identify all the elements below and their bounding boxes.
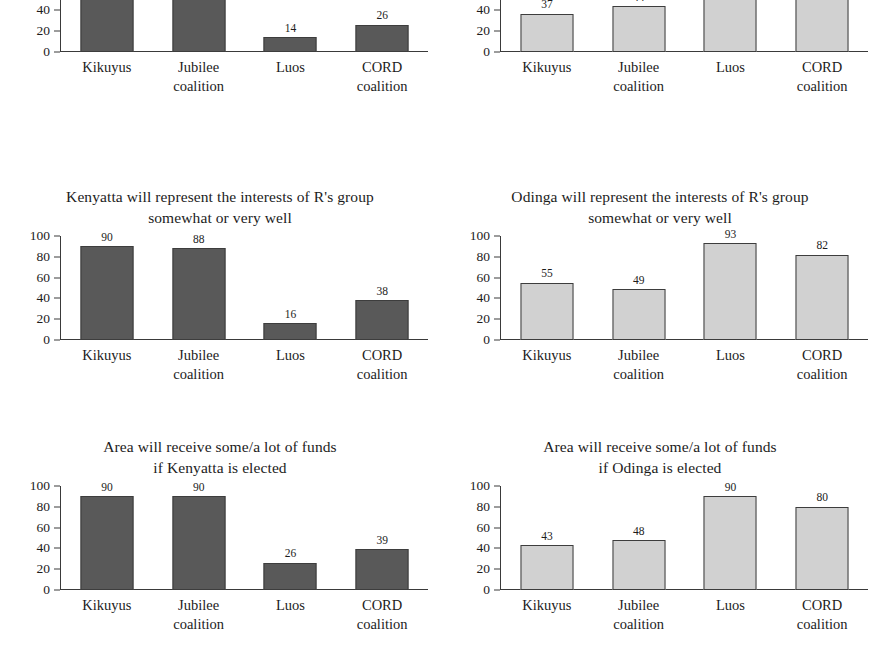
- y-axis-tick-label: 40: [477, 542, 491, 556]
- x-axis-tick-label: Kikuyus: [501, 596, 593, 615]
- bar-slot: 88: [153, 236, 245, 340]
- bar[interactable]: [264, 37, 317, 52]
- y-axis-tick-label: 80: [477, 500, 491, 514]
- bar-value-label: 44: [633, 0, 645, 3]
- y-axis-tick-label: 100: [470, 479, 490, 493]
- bar-value-label: 26: [285, 548, 297, 560]
- bar-value-label: 93: [725, 229, 737, 241]
- x-axis-tick-label: Luos: [245, 596, 337, 615]
- bar-slot: 82: [153, 0, 245, 52]
- bar[interactable]: [704, 496, 757, 590]
- y-axis-tick-label: 40: [37, 292, 51, 306]
- bar[interactable]: [172, 248, 225, 340]
- bar-value-label: 80: [816, 492, 828, 504]
- bar-value-label: 90: [193, 482, 205, 494]
- x-axis-tick-label: Kikuyus: [61, 346, 153, 365]
- bar-slot: 84: [685, 0, 777, 52]
- y-axis-tick-label: 40: [477, 4, 491, 18]
- plot-area: 02040608010090902639KikuyusJubilee coali…: [0, 486, 440, 632]
- y-axis-tick-label: 100: [470, 229, 490, 243]
- bar-value-label: 48: [633, 526, 645, 538]
- x-axis-tick-label: CORD coalition: [336, 596, 428, 634]
- y-axis-tick-label: 0: [43, 583, 50, 597]
- bar[interactable]: [796, 0, 849, 52]
- bar-slot: 93: [685, 236, 777, 340]
- bar[interactable]: [264, 563, 317, 590]
- bar[interactable]: [520, 545, 573, 590]
- panel-top-left: 02040608010080821426KikuyusJubilee coali…: [0, 0, 440, 94]
- bar[interactable]: [520, 283, 573, 340]
- bar-slot: 90: [153, 486, 245, 590]
- bar[interactable]: [704, 243, 757, 340]
- y-axis-tick-label: 60: [477, 271, 491, 285]
- bar-series: 80821426: [61, 0, 428, 52]
- x-axis-tick-label: CORD coalition: [776, 346, 868, 384]
- x-axis-tick-label: Kikuyus: [61, 596, 153, 615]
- bar-value-label: 90: [101, 482, 113, 494]
- bar[interactable]: [520, 14, 573, 52]
- y-axis: 020406080100: [0, 486, 60, 590]
- bar[interactable]: [796, 255, 849, 340]
- y-axis: 020406080100: [0, 236, 60, 340]
- bar-slot: 90: [685, 486, 777, 590]
- bar-value-label: 16: [285, 309, 297, 321]
- bar-value-label: 90: [725, 482, 737, 494]
- bar[interactable]: [356, 300, 409, 340]
- bar[interactable]: [612, 6, 665, 52]
- plot-area: 02040608010043489080KikuyusJubilee coali…: [440, 486, 880, 632]
- y-axis: 020406080100: [0, 0, 60, 52]
- chart-title: Area will receive some/a lot of funds if…: [0, 436, 440, 482]
- chart-title: Area will receive some/a lot of funds if…: [440, 436, 880, 482]
- bar-series: 90902639: [61, 486, 428, 590]
- y-axis: 020406080100: [440, 486, 500, 590]
- x-axis-tick-label: Kikuyus: [61, 58, 153, 77]
- bar[interactable]: [356, 549, 409, 590]
- y-axis-tick-label: 0: [483, 45, 490, 59]
- bar-slot: 90: [61, 236, 153, 340]
- y-axis-tick-label: 20: [477, 562, 491, 576]
- bar-slot: 80: [776, 486, 868, 590]
- x-axis-tick-label: Luos: [685, 346, 777, 365]
- x-axis-tick-label: Jubilee coalition: [153, 346, 245, 384]
- bar-value-label: 14: [285, 23, 297, 35]
- bar-slot: 82: [776, 236, 868, 340]
- plot-area: 02040608010090881638KikuyusJubilee coali…: [0, 236, 440, 382]
- x-axis: KikuyusJubilee coalitionLuosCORD coaliti…: [61, 58, 428, 98]
- bar[interactable]: [264, 323, 317, 340]
- bar-series: 55499382: [501, 236, 868, 340]
- x-axis: KikuyusJubilee coalitionLuosCORD coaliti…: [501, 596, 868, 636]
- x-axis-tick-label: Jubilee coalition: [153, 58, 245, 96]
- bar[interactable]: [80, 496, 133, 590]
- bar[interactable]: [612, 289, 665, 340]
- bar[interactable]: [172, 496, 225, 590]
- x-axis-tick-label: Kikuyus: [501, 346, 593, 365]
- bar-slot: 55: [501, 236, 593, 340]
- bar-slot: 37: [501, 0, 593, 52]
- bar[interactable]: [356, 25, 409, 52]
- plot-area: 02040608010055499382KikuyusJubilee coali…: [440, 236, 880, 382]
- y-axis-tick-label: 80: [37, 250, 51, 264]
- y-axis-tick-label: 60: [477, 521, 491, 535]
- x-axis-tick-label: Kikuyus: [501, 58, 593, 77]
- bar[interactable]: [796, 507, 849, 590]
- bar-slot: 44: [593, 0, 685, 52]
- y-axis-tick-label: 40: [37, 4, 51, 18]
- x-axis-tick-label: Jubilee coalition: [153, 596, 245, 634]
- plot-area: 02040608010080821426KikuyusJubilee coali…: [0, 0, 440, 94]
- x-axis-tick-label: CORD coalition: [336, 346, 428, 384]
- chart-title: Odinga will represent the interests of R…: [440, 186, 880, 232]
- bar-series: 90881638: [61, 236, 428, 340]
- bar-value-label: 37: [541, 0, 553, 11]
- x-axis: KikuyusJubilee coalitionLuosCORD coaliti…: [501, 346, 868, 386]
- panel-bottom-right: Area will receive some/a lot of funds if…: [440, 436, 880, 632]
- x-axis: KikuyusJubilee coalitionLuosCORD coaliti…: [501, 58, 868, 98]
- bar[interactable]: [704, 0, 757, 52]
- bar[interactable]: [80, 246, 133, 340]
- x-axis: KikuyusJubilee coalitionLuosCORD coaliti…: [61, 346, 428, 386]
- y-axis-tick-label: 100: [30, 479, 50, 493]
- bar[interactable]: [612, 540, 665, 590]
- x-axis-tick-label: Jubilee coalition: [593, 346, 685, 384]
- bar[interactable]: [80, 0, 133, 52]
- x-axis-tick-label: Luos: [245, 346, 337, 365]
- bar[interactable]: [172, 0, 225, 52]
